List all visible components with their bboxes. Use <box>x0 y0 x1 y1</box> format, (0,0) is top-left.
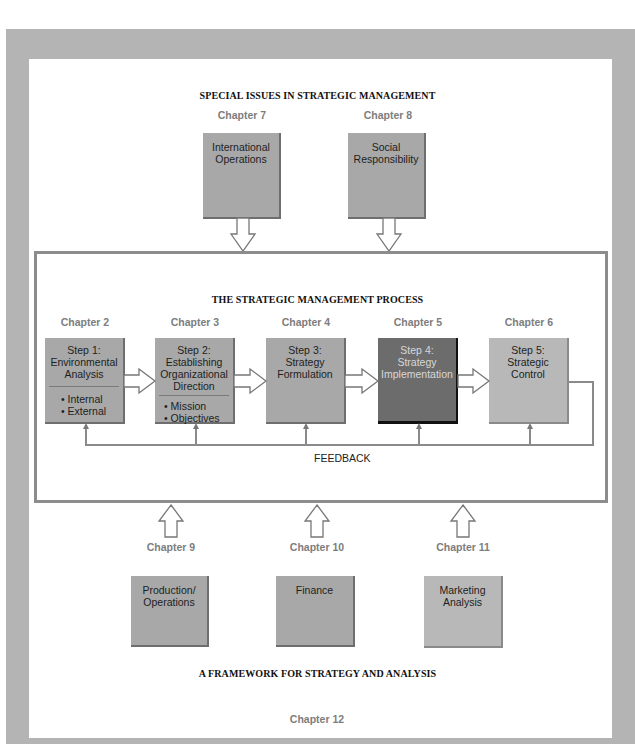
feedback-label: FEEDBACK <box>314 452 371 464</box>
chapter-3-label: Chapter 3 <box>155 316 235 328</box>
arrow-right-icon <box>234 368 267 394</box>
step-line: Step 5: <box>489 344 567 356</box>
step-line: Formulation <box>266 368 344 380</box>
step-line: Organizational <box>155 368 233 380</box>
feedback-line <box>569 381 594 383</box>
arrow-up-icon <box>158 504 184 538</box>
box-line: Operations <box>131 596 207 608</box>
marketing-analysis-box: Marketing Analysis <box>424 576 503 648</box>
feedback-line <box>85 444 594 446</box>
step-5-strategic-control-box: Step 5: Strategic Control <box>489 338 569 424</box>
international-operations-box: International Operations <box>203 133 281 219</box>
arrow-right-icon <box>124 368 156 394</box>
arrow-down-icon <box>230 218 256 252</box>
step-line: Direction <box>155 380 233 392</box>
chapter-12-label: Chapter 12 <box>277 713 357 725</box>
step-line: Control <box>489 368 567 380</box>
arrow-right-icon <box>458 368 490 394</box>
step-2-organizational-direction-box: Step 2: Establishing Organizational Dire… <box>155 338 235 424</box>
box-line: Responsibility <box>348 153 424 165</box>
step-line: Establishing <box>155 356 233 368</box>
bullet-item: • Mission <box>164 400 233 412</box>
step-line: Environmental <box>45 356 123 368</box>
production-operations-box: Production/ Operations <box>131 576 209 647</box>
chapter-7-label: Chapter 7 <box>202 109 282 121</box>
step-line: Strategic <box>489 356 567 368</box>
bullet-item: • External <box>61 405 123 417</box>
framework-title: A FRAMEWORK FOR STRATEGY AND ANALYSIS <box>0 668 635 679</box>
chapter-6-label: Chapter 6 <box>489 316 569 328</box>
arrow-right-icon <box>345 368 379 394</box>
step-line: Step 1: <box>45 344 123 356</box>
finance-box: Finance <box>276 576 355 647</box>
box-line: Social <box>348 141 424 153</box>
arrow-up-icon <box>304 504 330 538</box>
chapter-8-label: Chapter 8 <box>348 109 428 121</box>
step-line: Implementation <box>378 368 456 380</box>
arrowhead-up-icon <box>83 423 89 429</box>
step-4-strategy-implementation-box: Step 4: Strategy Implementation <box>378 338 458 424</box>
step-line: Step 4: <box>378 344 456 356</box>
step-line: Analysis <box>45 368 123 380</box>
arrowhead-up-icon <box>416 423 422 429</box>
chapter-2-label: Chapter 2 <box>45 316 125 328</box>
divider <box>159 395 229 396</box>
box-line: Marketing <box>424 584 501 596</box>
step-line: Strategy <box>266 356 344 368</box>
arrow-up-icon <box>450 504 476 538</box>
step-1-environmental-analysis-box: Step 1: Environmental Analysis • Interna… <box>45 338 125 424</box>
step-line: Strategy <box>378 356 456 368</box>
feedback-line <box>592 381 594 445</box>
box-line: Analysis <box>424 596 501 608</box>
chapter-4-label: Chapter 4 <box>266 316 346 328</box>
step-line: Step 2: <box>155 344 233 356</box>
social-responsibility-box: Social Responsibility <box>348 133 426 219</box>
chapter-9-label: Chapter 9 <box>131 541 211 553</box>
box-line: International <box>203 141 279 153</box>
arrowhead-up-icon <box>303 423 309 429</box>
step-line: Step 3: <box>266 344 344 356</box>
box-line: Production/ <box>131 584 207 596</box>
divider <box>49 386 119 387</box>
arrowhead-up-icon <box>527 423 533 429</box>
special-issues-title: SPECIAL ISSUES IN STRATEGIC MANAGEMENT <box>0 90 635 101</box>
chapter-10-label: Chapter 10 <box>277 541 357 553</box>
arrowhead-up-icon <box>193 423 199 429</box>
step-3-strategy-formulation-box: Step 3: Strategy Formulation <box>266 338 346 424</box>
box-line: Operations <box>203 153 279 165</box>
process-title: THE STRATEGIC MANAGEMENT PROCESS <box>0 294 635 305</box>
bullet-item: • Internal <box>61 393 123 405</box>
chapter-5-label: Chapter 5 <box>378 316 458 328</box>
arrow-down-icon <box>376 218 402 252</box>
box-line: Finance <box>276 584 353 596</box>
chapter-11-label: Chapter 11 <box>423 541 503 553</box>
